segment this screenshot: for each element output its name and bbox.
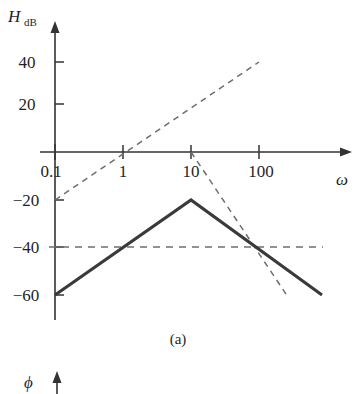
y-tick-label-20: 20	[19, 95, 36, 114]
x-tick-label-0.1: 0.1	[40, 162, 61, 181]
bode-magnitude-figure: H dB ω 40 20 −20 −40 −60 0.1 1 10 100 (a…	[0, 0, 362, 394]
y-axis-arrow-icon	[51, 21, 60, 33]
y-tick-label-minus-60: −60	[13, 286, 40, 305]
subfigure-caption: (a)	[170, 331, 187, 348]
y-tick-label-minus-40: −40	[13, 238, 40, 257]
x-axis-arrow-icon	[340, 148, 352, 157]
bode-plot-canvas: H dB ω 40 20 −20 −40 −60 0.1 1 10 100 (a…	[0, 0, 362, 394]
y-axis-label-main: H	[7, 7, 22, 26]
y-axis-label-subscript: dB	[24, 16, 37, 28]
y-tick-label-minus-20: −20	[13, 191, 40, 210]
bode-magnitude-curve	[55, 200, 322, 295]
x-tick-label-10: 10	[183, 162, 200, 181]
x-axis-label: ω	[336, 170, 348, 189]
x-tick-label-1: 1	[119, 162, 128, 181]
x-tick-label-100: 100	[248, 162, 274, 181]
phase-axis-arrow-icon	[53, 371, 62, 383]
phase-axis-label: ϕ	[24, 373, 33, 392]
asymptote-rising-20db-per-decade	[55, 62, 259, 200]
y-tick-label-40: 40	[19, 53, 36, 72]
